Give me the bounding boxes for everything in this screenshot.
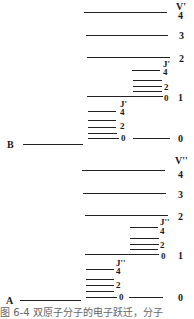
upper-v1-rot-level-3 — [133, 80, 162, 81]
lower-vib-label-3: 3 — [178, 190, 183, 200]
upper-v0-rot-level-4 — [88, 111, 116, 112]
upper-v0-rot-label-2: 2 — [120, 122, 125, 131]
lower-vib-label-1: 1 — [178, 251, 183, 261]
lower-vib-label-2: 2 — [178, 212, 183, 222]
upper-v1-rot-label-4: 4 — [163, 68, 168, 77]
lower-v1-rot-label-4: 4 — [160, 227, 165, 236]
upper-vib-level-4 — [84, 12, 167, 13]
upper-vib-label-2: 2 — [179, 54, 184, 64]
upper-vib-label-3: 3 — [179, 31, 184, 41]
lower-vib-label-4: 4 — [178, 170, 183, 180]
upper-vib-label-1: 1 — [178, 93, 183, 103]
lower-v0-rot-label-0: 0 — [119, 293, 124, 302]
upper-v0-rot-level-2 — [88, 127, 116, 128]
lower-v0-rot-level-1 — [86, 291, 114, 292]
lower-v0-rot-level-0 — [86, 297, 117, 298]
lower-v1-rot-level-3 — [130, 238, 159, 239]
upper-vib-level-2 — [87, 57, 170, 58]
upper-v1-rot-level-2 — [133, 86, 162, 87]
figure-caption: 图 6-4 双原子分子的电子跃迁，分子 — [0, 307, 194, 319]
lower-v1-rot-level-2 — [130, 244, 159, 245]
lower-v0-rot-level-4 — [86, 269, 114, 270]
lower-electronic-level — [20, 300, 81, 301]
upper-v0-rot-level-3 — [88, 120, 116, 121]
lower-vib-label-0: 0 — [178, 293, 183, 303]
upper-v1-rot-label-0: 0 — [164, 94, 169, 103]
upper-vib-level-0 — [133, 138, 170, 139]
lower-v1-rot-level-4 — [130, 227, 158, 228]
lower-vib-level-2 — [85, 215, 168, 216]
lower-v0-rot-label-2: 2 — [116, 281, 121, 290]
lower-v1-rot-label-2: 2 — [160, 241, 165, 250]
upper-electronic-label: B — [7, 140, 14, 150]
upper-electronic-level — [23, 144, 83, 145]
upper-v0-rot-label-0: 0 — [121, 134, 126, 143]
upper-vib-level-3 — [86, 35, 168, 36]
lower-vib-level-1 — [85, 254, 159, 255]
lower-v1-rot-label-0: 0 — [161, 252, 166, 261]
lower-vib-header: V'' — [175, 156, 188, 166]
upper-v0-rot-label-4: 4 — [120, 108, 125, 117]
upper-v1-rot-level-4 — [132, 70, 160, 71]
lower-v0-rot-label-4: 4 — [116, 267, 121, 276]
lower-vib-level-4 — [82, 170, 165, 171]
lower-v0-rot-level-2 — [86, 285, 114, 286]
upper-v0-rot-level-1 — [88, 133, 117, 134]
upper-vib-label-0: 0 — [178, 134, 183, 144]
upper-vib-level-1 — [87, 96, 163, 97]
upper-v1-rot-level-1 — [133, 91, 162, 92]
lower-vib-level-3 — [83, 193, 166, 194]
lower-vib-level-0 — [129, 297, 163, 298]
lower-v0-rot-level-3 — [86, 279, 114, 280]
lower-electronic-label: A — [6, 296, 13, 306]
upper-vib-label-4: 4 — [178, 11, 183, 21]
upper-v0-rot-level-0 — [88, 138, 119, 139]
lower-v1-rot-level-1 — [130, 249, 158, 250]
upper-v1-rot-label-2: 2 — [164, 83, 169, 92]
